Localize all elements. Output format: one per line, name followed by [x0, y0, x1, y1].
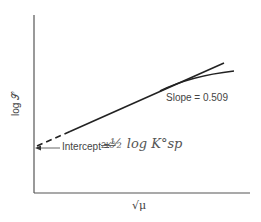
y-axis-label: log 𝒮	[10, 90, 22, 118]
intercept-handwritten-value: ½ log K°sp	[110, 136, 182, 151]
slope-annotation: Slope = 0.509	[166, 92, 228, 103]
chart-figure	[0, 0, 261, 222]
x-axis-label: √μ	[132, 199, 146, 212]
experimental-curve	[160, 71, 234, 91]
